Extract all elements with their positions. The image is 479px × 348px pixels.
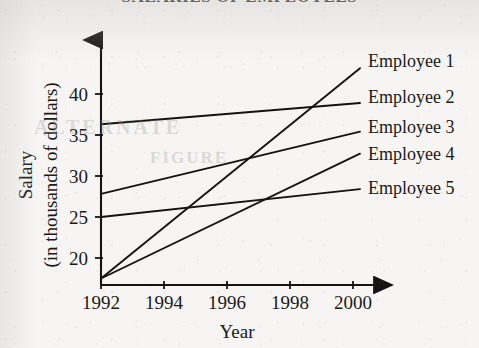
x-tick-label-1996: 1996 bbox=[208, 292, 246, 313]
series-line-employee-3 bbox=[101, 132, 360, 194]
x-tick-label-2000: 2000 bbox=[334, 292, 372, 313]
legend-item-employee-2: Employee 2 bbox=[368, 87, 454, 107]
legend-group: Employee 1 Employee 2 Employee 3 Employe… bbox=[368, 51, 454, 198]
y-axis-title-line1: Salary bbox=[15, 150, 36, 199]
y-tick-label-25: 25 bbox=[69, 207, 88, 228]
x-tick-label-1998: 1998 bbox=[271, 292, 309, 313]
data-series-group bbox=[101, 68, 360, 278]
salary-line-chart-figure: 20 25 30 35 40 1992 1994 1996 1998 2000 … bbox=[0, 0, 479, 348]
series-line-employee-2 bbox=[101, 103, 360, 124]
x-axis-tick-labels: 1992 1994 1996 1998 2000 bbox=[82, 292, 372, 313]
legend-item-employee-4: Employee 4 bbox=[368, 144, 454, 164]
y-tick-label-30: 30 bbox=[69, 166, 88, 187]
legend-item-employee-3: Employee 3 bbox=[368, 117, 454, 137]
y-axis-tick-labels: 20 25 30 35 40 bbox=[69, 84, 88, 269]
x-axis-title: Year bbox=[219, 321, 255, 342]
y-tick-label-40: 40 bbox=[69, 84, 88, 105]
y-tick-label-35: 35 bbox=[69, 125, 88, 146]
y-axis-title-line2: (in thousands of dollars) bbox=[40, 82, 62, 267]
y-tick-label-20: 20 bbox=[69, 248, 88, 269]
legend-item-employee-1: Employee 1 bbox=[368, 51, 454, 71]
x-tick-label-1994: 1994 bbox=[145, 292, 184, 313]
x-tick-label-1992: 1992 bbox=[82, 292, 120, 313]
chart-canvas: 20 25 30 35 40 1992 1994 1996 1998 2000 … bbox=[0, 0, 479, 348]
series-line-employee-5 bbox=[101, 189, 360, 217]
legend-item-employee-5: Employee 5 bbox=[368, 178, 454, 198]
